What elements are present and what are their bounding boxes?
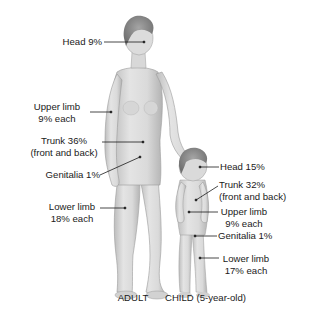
adult-left-leg bbox=[114, 178, 140, 294]
rule-of-nines-diagram: Head 9% Upper limb 9% each Trunk 36% (fr… bbox=[0, 0, 311, 311]
child-upper-limb-label-line1: Upper limb bbox=[216, 206, 272, 218]
adult-trunk-label: Trunk 36% (front and back) bbox=[22, 135, 106, 158]
child-head-label: Head 15% bbox=[220, 161, 265, 173]
adult-trunk-label-line1: Trunk 36% bbox=[22, 135, 106, 147]
child-caption-text: CHILD (5-year-old) bbox=[165, 292, 246, 303]
adult-upper-limb-label-line1: Upper limb bbox=[26, 101, 88, 113]
child-figure bbox=[176, 148, 210, 298]
adult-upper-limb-label: Upper limb 9% each bbox=[26, 101, 88, 124]
adult-head-label-text: Head 9% bbox=[63, 36, 102, 47]
child-lower-limb-label: Lower limb 17% each bbox=[218, 253, 274, 276]
child-genitalia-label: Genitalia 1% bbox=[218, 230, 272, 242]
child-upper-limb-label: Upper limb 9% each bbox=[216, 206, 272, 229]
adult-right-leg bbox=[140, 178, 166, 296]
child-caption: CHILD (5-year-old) bbox=[165, 292, 246, 304]
adult-lower-limb-label: Lower limb 18% each bbox=[42, 201, 102, 224]
adult-lower-limb-label-line2: 18% each bbox=[42, 213, 102, 225]
adult-caption: ADULT bbox=[108, 292, 158, 304]
child-genitalia-label-text: Genitalia 1% bbox=[218, 230, 272, 241]
child-lower-limb-label-line1: Lower limb bbox=[218, 253, 274, 265]
adult-genitalia-label-text: Genitalia 1% bbox=[46, 169, 100, 180]
adult-lower-limb-label-line1: Lower limb bbox=[42, 201, 102, 213]
adult-head-label: Head 9% bbox=[18, 36, 102, 48]
child-trunk-label-line1: Trunk 32% bbox=[219, 179, 286, 191]
adult-genitalia-label: Genitalia 1% bbox=[20, 169, 100, 181]
adult-caption-text: ADULT bbox=[118, 292, 149, 303]
child-upper-limb-label-line2: 9% each bbox=[216, 218, 272, 230]
adult-trunk-label-line2: (front and back) bbox=[22, 147, 106, 159]
adult-upper-limb-label-line2: 9% each bbox=[26, 113, 88, 125]
child-trunk-label-line2: (front and back) bbox=[219, 191, 286, 203]
child-trunk-label: Trunk 32% (front and back) bbox=[219, 179, 286, 202]
child-head-label-text: Head 15% bbox=[220, 161, 265, 172]
child-lower-limb-label-line2: 17% each bbox=[218, 265, 274, 277]
